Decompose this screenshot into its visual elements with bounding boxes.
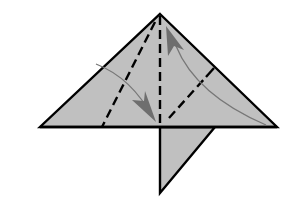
- main-triangle: [40, 14, 277, 127]
- origami-diagram: [0, 0, 296, 212]
- bottom-flap: [160, 127, 215, 193]
